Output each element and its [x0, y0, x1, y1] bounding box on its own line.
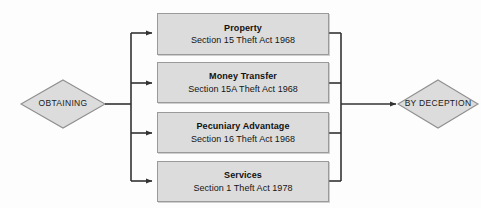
branch-box-services[interactable]: Services Section 1 Theft Act 1978 — [157, 161, 329, 202]
branch-subtitle: Section 16 Theft Act 1968 — [191, 134, 295, 144]
branch-box-pecuniary-advantage[interactable]: Pecuniary Advantage Section 16 Theft Act… — [157, 112, 329, 153]
branch-title: Money Transfer — [209, 71, 277, 81]
branch-box-money-transfer[interactable]: Money Transfer Section 15A Theft Act 196… — [157, 62, 329, 103]
diagram-canvas: OBTAINING BY DECEPTION Property Section … — [0, 0, 481, 208]
branch-subtitle: Section 15 Theft Act 1968 — [191, 35, 295, 45]
branch-title: Property — [224, 23, 262, 33]
branch-box-property[interactable]: Property Section 15 Theft Act 1968 — [157, 13, 329, 55]
branch-subtitle: Section 1 Theft Act 1978 — [193, 183, 292, 193]
by-deception-diamond-label: BY DECEPTION — [396, 98, 480, 108]
branch-title: Pecuniary Advantage — [196, 121, 289, 131]
obtaining-diamond-label: OBTAINING — [21, 98, 105, 108]
branch-subtitle: Section 15A Theft Act 1968 — [188, 84, 298, 94]
branch-title: Services — [224, 170, 262, 180]
